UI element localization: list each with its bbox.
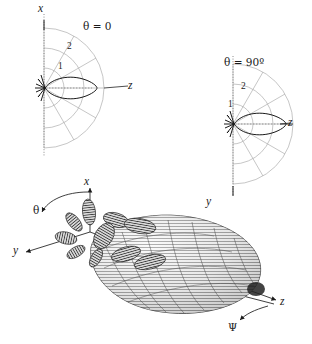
figure-vector-layer (0, 0, 312, 344)
three-d-axis-y-label: y (13, 245, 18, 257)
polar-left-axis-z-label: z (128, 80, 132, 92)
polar-right-axis-y-label: y (206, 196, 211, 208)
polar-axis-right (233, 56, 293, 196)
three-d-theta-label: θ (33, 205, 39, 216)
figure-canvas: x θ = 0 2 1 z θ = 90º 2 1 z y x θ y z Ψ (0, 0, 312, 344)
theta-arrow (42, 192, 88, 212)
three-d-psi-label: Ψ (228, 322, 237, 333)
main-lobe-surface (91, 215, 265, 313)
three-d-pattern-group (26, 188, 276, 320)
three-d-axis-x-label: x (84, 176, 89, 188)
three-d-axis-z-label: z (280, 296, 284, 308)
polar-right-axis-z-label: z (288, 117, 292, 129)
polar-left-rtick-2: 2 (67, 42, 72, 52)
polar-left-condition-label: θ = 0 (83, 21, 111, 32)
polar-right-rtick-2: 2 (241, 82, 246, 92)
polar-axis-left (44, 14, 128, 156)
psi-arrow (240, 296, 274, 320)
polar-right-rtick-1: 1 (228, 100, 233, 110)
polar-left-rtick-1: 1 (58, 62, 63, 72)
polar-left-axis-x-label: x (38, 3, 43, 15)
polar-right-condition-label: θ = 90º (224, 57, 264, 68)
